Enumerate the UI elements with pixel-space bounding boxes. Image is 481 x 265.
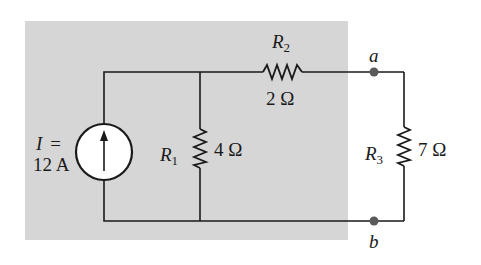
source-eq: = [50,133,61,154]
shaded-network-region [25,21,348,240]
r1-value: 4 Ω [214,139,242,160]
r2-name: R [271,31,284,52]
r3-name: R [364,143,377,164]
r1-sub: 1 [172,153,179,168]
node-b [370,217,379,226]
r2-sub: 2 [284,40,291,55]
circuit-svg: I= 12 A R1 4 Ω R2 2 Ω R3 7 Ω a b [0,0,481,265]
node-a [370,68,379,77]
node-a-label: a [369,45,379,66]
r3-value: 7 Ω [418,139,446,160]
r2-value: 2 Ω [266,88,294,109]
current-source [76,124,132,180]
r3-sub: 3 [377,152,384,167]
source-value: 12 A [33,154,70,175]
node-b-label: b [369,231,379,252]
r1-name: R [159,144,172,165]
resistor-r3 [398,127,410,166]
circuit-diagram: I= 12 A R1 4 Ω R2 2 Ω R3 7 Ω a b [0,0,481,265]
svg-text:R3: R3 [364,143,383,167]
